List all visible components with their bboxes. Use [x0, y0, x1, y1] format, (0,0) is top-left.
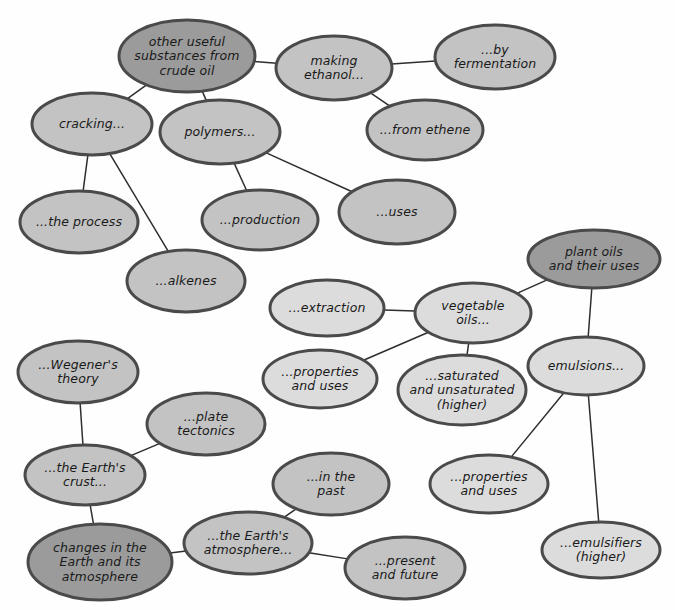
node-label-present-future: ...presentand future: [372, 552, 439, 582]
node-vegetable-oils[interactable]: vegetableoils...: [415, 283, 531, 343]
node-label-line: and future: [372, 567, 439, 582]
node-label-line: changes in the: [53, 539, 147, 554]
node-label-line: emulsions...: [548, 358, 624, 373]
node-label-line: ...from ethene: [380, 122, 471, 137]
node-label-line: other useful: [149, 33, 226, 48]
node-label-making-ethanol: makingethanol...: [304, 52, 364, 82]
edge-making-ethanol-to-from-ethene: [371, 93, 390, 106]
node-label-line: ...the Earth's: [44, 459, 126, 474]
node-label-line: ...properties: [281, 363, 359, 378]
node-label-line: ...properties: [450, 468, 528, 483]
edge-making-ethanol-to-by-fermentation: [392, 61, 436, 64]
node-label-uses: ...uses: [376, 204, 418, 219]
node-extraction[interactable]: ...extraction: [270, 280, 384, 336]
node-label-plate-tectonics: ...platetectonics: [177, 408, 235, 438]
node-label-line: atmosphere...: [204, 542, 293, 557]
node-changes-earth[interactable]: changes in theEarth and itsatmosphere: [28, 524, 172, 600]
edge-wegener-to-earths-crust: [80, 403, 83, 445]
node-label-line: tectonics: [177, 423, 235, 438]
node-crude-oil[interactable]: other usefulsubstances fromcrude oil: [119, 20, 255, 92]
node-emulsions[interactable]: emulsions...: [528, 337, 644, 395]
edge-polymers-to-uses: [266, 153, 352, 192]
node-label-line: substances from: [134, 48, 239, 63]
node-label-line: Earth and its: [59, 554, 141, 569]
node-label-line: fermentation: [454, 56, 537, 71]
node-present-future[interactable]: ...presentand future: [345, 537, 465, 599]
node-label-line: theory: [57, 371, 99, 386]
node-label-line: ...the process: [36, 214, 123, 229]
node-label-line: ...saturated: [425, 367, 498, 382]
edge-earths-atmosphere-to-present-future: [309, 553, 348, 559]
node-label-from-ethene: ...from ethene: [380, 122, 471, 137]
edge-changes-earth-to-earths-atmosphere: [170, 551, 186, 553]
node-oil-properties-uses[interactable]: ...propertiesand uses: [263, 350, 377, 408]
node-label-line: and unsaturated: [409, 382, 514, 397]
node-label-line: ...the Earth's: [207, 527, 289, 542]
node-label-emulsions: emulsions...: [548, 358, 624, 373]
node-label-line: cracking...: [59, 116, 125, 131]
node-the-process[interactable]: ...the process: [20, 191, 138, 253]
node-label-line: past: [316, 483, 345, 498]
node-alkenes[interactable]: ...alkenes: [127, 250, 245, 312]
edge-polymers-to-production: [234, 163, 247, 191]
edge-earths-atmosphere-to-in-the-past: [284, 509, 296, 518]
node-label-line: ...production: [220, 212, 301, 227]
edge-emulsions-to-emulsifiers: [588, 395, 598, 522]
node-label-line: polymers...: [184, 124, 256, 139]
node-earths-atmosphere[interactable]: ...the Earth'satmosphere...: [184, 512, 312, 574]
edge-crude-oil-to-cracking: [127, 85, 146, 99]
node-label-line: ...extraction: [289, 300, 366, 315]
node-label-line: and uses: [461, 483, 518, 498]
node-earths-crust[interactable]: ...the Earth'scrust...: [25, 445, 145, 505]
node-label-line: vegetable: [441, 297, 504, 312]
node-label-line: ...uses: [376, 204, 418, 219]
edge-crude-oil-to-making-ethanol: [254, 61, 276, 63]
node-label-line: ethanol...: [304, 67, 364, 82]
node-label-line: ...alkenes: [155, 273, 216, 288]
node-label-cracking: cracking...: [59, 116, 125, 131]
edge-plant-oils-to-emulsions: [588, 288, 592, 337]
edge-plant-oils-to-vegetable-oils: [517, 280, 548, 294]
node-production[interactable]: ...production: [202, 190, 318, 250]
node-from-ethene[interactable]: ...from ethene: [367, 100, 483, 160]
node-label-polymers: polymers...: [184, 124, 256, 139]
node-label-extraction: ...extraction: [289, 300, 366, 315]
node-label-line: ...present: [375, 552, 437, 567]
node-label-line: plant oils: [564, 243, 623, 258]
node-label-earths-atmosphere: ...the Earth'satmosphere...: [204, 527, 293, 557]
node-label-emulsion-properties-uses: ...propertiesand uses: [450, 468, 528, 498]
node-label-line: ...plate: [184, 408, 229, 423]
edge-vegetable-oils-to-extraction: [384, 310, 415, 311]
node-label-line: (higher): [576, 549, 627, 564]
node-layer: other usefulsubstances fromcrude oilmaki…: [18, 20, 660, 600]
node-label-line: atmosphere: [62, 568, 138, 583]
node-in-the-past[interactable]: ...in thepast: [273, 453, 389, 515]
edge-vegetable-oils-to-oil-properties-uses: [363, 332, 428, 360]
edge-plate-tectonics-to-earths-crust: [131, 443, 160, 455]
node-label-changes-earth: changes in theEarth and itsatmosphere: [53, 539, 147, 583]
node-plant-oils[interactable]: plant oilsand their uses: [528, 230, 660, 288]
node-label-oil-properties-uses: ...propertiesand uses: [281, 363, 359, 393]
node-polymers[interactable]: polymers...: [160, 100, 280, 164]
node-uses[interactable]: ...uses: [339, 180, 455, 244]
edge-vegetable-oils-to-saturated-unsaturated: [467, 343, 469, 355]
node-label-line: ...in the: [307, 468, 356, 483]
node-label-line: ...Wegener's: [38, 356, 118, 371]
node-label-line: crude oil: [159, 62, 214, 77]
node-wegener[interactable]: ...Wegener'stheory: [18, 341, 138, 403]
node-emulsion-properties-uses[interactable]: ...propertiesand uses: [430, 455, 548, 513]
node-label-the-process: ...the process: [36, 214, 123, 229]
node-label-line: and their uses: [549, 258, 640, 273]
node-label-line: crust...: [63, 474, 107, 489]
concept-map-svg: other usefulsubstances fromcrude oilmaki…: [0, 0, 675, 610]
node-saturated-unsaturated[interactable]: ...saturatedand unsaturated(higher): [398, 355, 526, 425]
node-label-line: (higher): [437, 396, 488, 411]
node-cracking[interactable]: cracking...: [32, 93, 152, 155]
node-label-line: and uses: [292, 378, 349, 393]
node-by-fermentation[interactable]: ...byfermentation: [435, 25, 555, 89]
node-plate-tectonics[interactable]: ...platetectonics: [147, 393, 265, 455]
node-making-ethanol[interactable]: makingethanol...: [276, 36, 392, 100]
node-emulsifiers[interactable]: ...emulsifiers(higher): [542, 522, 660, 578]
node-label-line: ...emulsifiers: [560, 534, 642, 549]
concept-map-canvas: other usefulsubstances fromcrude oilmaki…: [0, 0, 675, 610]
